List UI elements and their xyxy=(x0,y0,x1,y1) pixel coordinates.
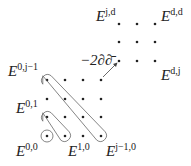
label-e-dd: Ed,d xyxy=(161,9,183,24)
label-e-j10: Ej−1,0 xyxy=(106,144,136,159)
label-e-0j1: E0,j−1 xyxy=(8,64,38,79)
label-e-10: E1,0 xyxy=(68,144,90,159)
lower-dot-grid xyxy=(46,79,103,138)
label-e-jd: Ej,d xyxy=(96,9,115,24)
diagonal-enclosures xyxy=(41,75,106,142)
label-operator: −2∂∂̄ xyxy=(80,53,112,68)
label-e-dj: Ed,j xyxy=(161,68,180,83)
spectral-sequence-diagram: Ej,d Ed,d Ed,j −2∂∂̄ E0,j−1 E0,1 E0,0 E1… xyxy=(0,0,191,166)
label-e-01: E0,1 xyxy=(16,101,38,116)
label-e-00: E0,0 xyxy=(16,144,38,159)
upper-dot-grid xyxy=(118,23,157,63)
